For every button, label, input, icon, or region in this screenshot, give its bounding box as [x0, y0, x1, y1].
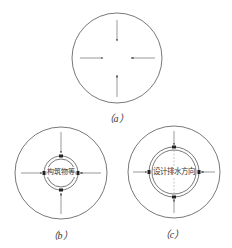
outlet-marker	[43, 171, 46, 175]
outlet-marker	[59, 155, 63, 158]
outlet-marker	[77, 171, 80, 175]
outlet-marker	[59, 189, 63, 192]
caption-a: （a）	[104, 110, 129, 125]
outlet-marker	[148, 170, 151, 174]
panel-a	[72, 13, 162, 103]
inner-label-b: 构筑物等	[47, 167, 75, 177]
caption-b: （b）	[48, 227, 73, 242]
outlet-marker	[172, 196, 176, 199]
outlet-marker	[198, 170, 201, 174]
caption-c: （c）	[160, 226, 184, 241]
outlet-marker	[172, 146, 176, 149]
inner-label-c: 设计排水方向	[153, 166, 195, 177]
